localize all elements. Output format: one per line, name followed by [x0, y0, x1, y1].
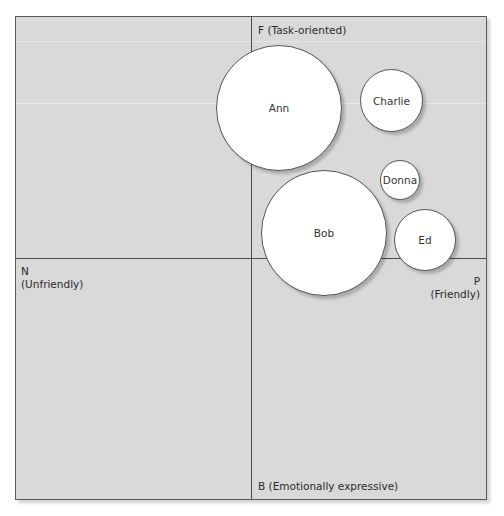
- axis-label-right-desc: (Friendly): [430, 288, 480, 301]
- quadrant-frame: F (Task-oriented) B (Emotionally express…: [15, 16, 487, 500]
- axis-label-top: F (Task-oriented): [258, 24, 346, 37]
- bubble-ed: Ed: [394, 209, 456, 271]
- axis-label-right: P (Friendly): [430, 275, 480, 301]
- axis-label-left-letter: N: [21, 265, 83, 278]
- bubble-label: Bob: [314, 227, 334, 239]
- bubble-ann: Ann: [216, 45, 342, 171]
- bubble-label: Donna: [383, 174, 417, 186]
- bubble-bob: Bob: [261, 170, 387, 296]
- axis-label-left: N (Unfriendly): [21, 265, 83, 291]
- axis-label-bottom: B (Emotionally expressive): [258, 480, 398, 493]
- bubble-charlie: Charlie: [360, 69, 423, 132]
- bubble-label: Charlie: [373, 95, 410, 107]
- axis-label-right-letter: P: [430, 275, 480, 288]
- bubble-label: Ed: [418, 234, 431, 246]
- bubble-donna: Donna: [380, 160, 420, 200]
- bubble-label: Ann: [269, 102, 290, 114]
- axis-label-left-desc: (Unfriendly): [21, 278, 83, 291]
